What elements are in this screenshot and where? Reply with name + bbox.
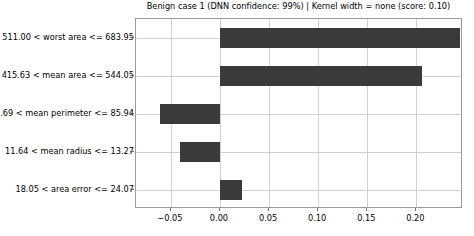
x-tick-mark-1 (219, 208, 220, 211)
y-tick-label-4: 18.05 < area error <= 24.07 (15, 184, 134, 194)
y-tick-mark-4 (130, 189, 134, 190)
y-tick-label-3: 11.64 < mean radius <= 13.27 (5, 146, 134, 156)
x-tick-mark-2 (268, 208, 269, 211)
y-tick-mark-3 (130, 151, 134, 152)
bar-4 (220, 180, 242, 200)
x-tick-mark-3 (317, 208, 318, 211)
gridline-horizontal-4 (136, 190, 461, 191)
x-tick-label-5: 0.20 (406, 213, 424, 223)
y-tick-mark-1 (130, 75, 134, 76)
chart-title: Benign case 1 (DNN confidence: 99%) | Ke… (135, 1, 462, 12)
chart-figure: Benign case 1 (DNN confidence: 99%) | Ke… (0, 0, 474, 236)
x-tick-label-1: 0.00 (210, 213, 228, 223)
bar-0 (220, 28, 460, 48)
x-tick-label-2: 0.05 (259, 213, 277, 223)
bar-3 (180, 142, 220, 162)
x-tick-mark-0 (170, 208, 171, 211)
y-tick-mark-2 (130, 113, 134, 114)
x-tick-label-3: 0.10 (308, 213, 326, 223)
x-tick-mark-4 (366, 208, 367, 211)
x-tick-label-4: 0.15 (357, 213, 375, 223)
y-tick-mark-0 (130, 37, 134, 38)
y-tick-label-0: 511.00 < worst area <= 683.95 (2, 32, 134, 42)
y-tick-label-1: 415.63 < mean area <= 544.05 (2, 70, 134, 80)
x-axis-tick-labels: −0.050.000.050.100.150.20 (135, 208, 462, 232)
plot-area (135, 18, 462, 208)
bar-1 (220, 66, 422, 86)
x-tick-mark-5 (415, 208, 416, 211)
x-tick-label-0: −0.05 (157, 213, 182, 223)
y-tick-label-2: 74.69 < mean perimeter <= 85.94 (0, 108, 134, 118)
bar-2 (160, 104, 220, 124)
